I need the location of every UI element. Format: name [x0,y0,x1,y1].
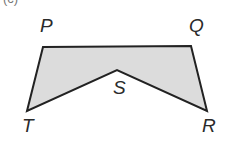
vertex-label-s: S [113,78,126,97]
vertex-label-q: Q [189,16,204,35]
polygon-figure: (c) P Q S T R [0,0,232,141]
vertex-label-p: P [40,16,53,35]
vertex-label-t: T [22,116,34,135]
vertex-label-r: R [202,116,216,135]
